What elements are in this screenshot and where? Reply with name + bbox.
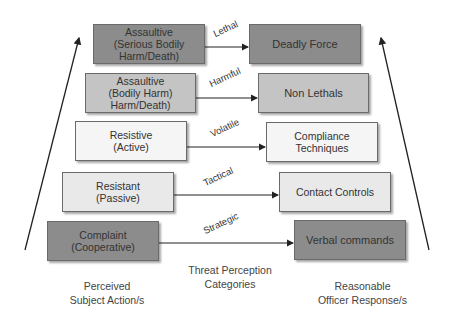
officer-response-box-2: Non Lethals	[258, 73, 369, 113]
officer-response-box-4: Contact Controls	[279, 172, 391, 212]
subject-action-box-3: Resistive (Active)	[75, 121, 187, 161]
left-escalation-arrow	[25, 38, 79, 250]
officer-response-label: Compliance Techniques	[267, 130, 377, 154]
subject-action-label: Complaint (Cooperative)	[71, 229, 135, 253]
officer-response-label: Verbal commands	[306, 234, 394, 246]
officer-response-box-5: Verbal commands	[294, 220, 406, 260]
subject-action-box-1: Assaultive (Serious Bodily Harm/Death)	[93, 24, 205, 64]
subject-action-box-5: Complaint (Cooperative)	[47, 221, 159, 261]
caption-reasonable-officer-response: Reasonable Officer Response/s	[305, 279, 420, 307]
subject-action-label: Assaultive (Serious Bodily Harm/Death)	[114, 26, 185, 62]
subject-action-box-4: Resistant (Passive)	[62, 172, 174, 212]
officer-response-label: Deadly Force	[272, 38, 337, 50]
right-escalation-arrow	[381, 38, 429, 250]
subject-action-label: Resistant (Passive)	[96, 180, 140, 204]
caption-threat-perception-categories: Threat Perception Categories	[170, 263, 290, 291]
subject-action-label: Resistive (Active)	[110, 129, 153, 153]
subject-action-label: Assaultive (Bodily Harm) Harm/Death)	[108, 75, 172, 111]
officer-response-box-3: Compliance Techniques	[266, 122, 378, 162]
caption-perceived-subject-action: Perceived Subject Action/s	[52, 279, 162, 307]
subject-action-box-2: Assaultive (Bodily Harm) Harm/Death)	[85, 73, 196, 113]
officer-response-label: Non Lethals	[284, 87, 343, 99]
officer-response-box-1: Deadly Force	[249, 24, 361, 64]
officer-response-label: Contact Controls	[296, 186, 374, 198]
